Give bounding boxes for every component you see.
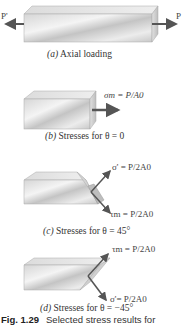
panel-a-bar xyxy=(6,6,176,42)
normal-stress-label: σ' = P/2A0 xyxy=(112,162,151,172)
caption-c: (c) Stresses for θ = 45° xyxy=(43,226,130,236)
left-force-label: P' xyxy=(1,11,8,21)
caption-letter: (b) xyxy=(45,131,56,141)
caption-text: Stresses for θ = 45° xyxy=(54,226,131,236)
shear-stress-label: τm = P/2A0 xyxy=(112,244,155,254)
caption-b: (b) Stresses for θ = 0 xyxy=(45,131,124,141)
caption-letter: (d) xyxy=(40,303,51,313)
caption-text: Axial loading xyxy=(58,49,112,59)
normal-stress-arrow xyxy=(88,276,106,300)
panel-d-block xyxy=(24,254,110,300)
normal-stress-arrow xyxy=(91,171,110,192)
caption-letter: (a) xyxy=(47,49,58,59)
normal-stress-label: σm = P/A0 xyxy=(104,90,144,100)
caption-letter: (c) xyxy=(43,226,54,236)
caption-d: (d) Stresses for θ = −45° xyxy=(40,303,133,313)
figure-number: Fig. 1.29 xyxy=(1,314,39,325)
figure-caption: Fig. 1.29Selected stress results for xyxy=(1,314,155,325)
caption-text: Stresses for θ = 0 xyxy=(56,131,124,141)
panel-c-block xyxy=(24,171,110,213)
shear-stress-label: τm = P/2A0 xyxy=(110,209,153,219)
caption-text: Stresses for θ = −45° xyxy=(51,303,133,313)
caption-a: (a) Axial loading xyxy=(47,49,112,59)
right-force-label: P xyxy=(176,11,181,21)
figure-caption-text: Selected stress results for xyxy=(46,314,155,325)
